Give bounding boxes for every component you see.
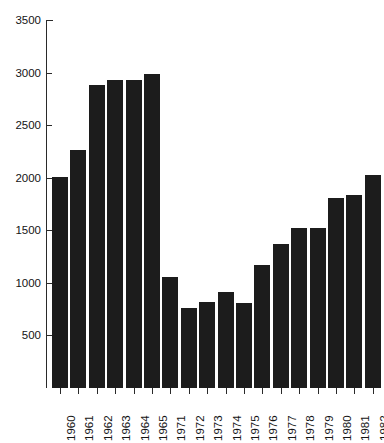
x-tick-label: 1975 bbox=[249, 415, 261, 441]
x-tick-label: 1963 bbox=[120, 415, 132, 441]
bar bbox=[144, 74, 160, 388]
y-tick-label: 1500 bbox=[15, 225, 41, 236]
y-tick-label: 500 bbox=[22, 330, 41, 341]
bar bbox=[181, 308, 197, 388]
x-tick-label: 1979 bbox=[323, 415, 335, 441]
x-tick-label: 1971 bbox=[175, 415, 187, 441]
y-tick-label: 3500 bbox=[15, 15, 41, 26]
bar bbox=[162, 277, 178, 388]
x-tick-label: 1976 bbox=[267, 415, 279, 441]
plot-area bbox=[46, 20, 382, 388]
bar bbox=[218, 292, 234, 388]
bar bbox=[365, 175, 381, 388]
bar bbox=[328, 198, 344, 388]
bar bbox=[291, 228, 307, 388]
bar bbox=[126, 80, 142, 388]
x-tick-label: 1961 bbox=[83, 415, 95, 441]
x-tick-label: 1972 bbox=[194, 415, 206, 441]
y-tick-mark bbox=[46, 178, 52, 179]
x-tick-label: 1973 bbox=[212, 415, 224, 441]
y-tick-label: 2500 bbox=[15, 120, 41, 131]
y-tick-label: 2000 bbox=[15, 173, 41, 184]
x-tick-label: 1980 bbox=[341, 415, 353, 441]
y-tick-mark bbox=[46, 230, 52, 231]
x-tick-label: 1978 bbox=[304, 415, 316, 441]
x-tick-label: 1982 bbox=[378, 415, 384, 441]
bar bbox=[310, 228, 326, 388]
y-tick-label: 3000 bbox=[15, 68, 41, 79]
x-tick-label: 1965 bbox=[157, 415, 169, 441]
x-axis-labels: 1960196119621963196419651971197219731974… bbox=[46, 394, 382, 443]
y-tick-mark bbox=[46, 283, 52, 284]
y-tick-mark bbox=[46, 125, 52, 126]
y-tick-mark bbox=[46, 73, 52, 74]
bar bbox=[52, 177, 68, 388]
x-tick-label: 1960 bbox=[65, 415, 77, 441]
y-tick-mark bbox=[46, 335, 52, 336]
bar bbox=[70, 150, 86, 388]
bar bbox=[236, 303, 252, 388]
x-tick-label: 1974 bbox=[231, 415, 243, 441]
bar bbox=[346, 195, 362, 388]
x-tick-label: 1964 bbox=[139, 415, 151, 441]
bar bbox=[273, 244, 289, 388]
bar bbox=[254, 265, 270, 388]
y-axis-labels: 350030002500200015001000500 bbox=[0, 20, 44, 388]
x-tick-label: 1962 bbox=[102, 415, 114, 441]
bar-chart: 350030002500200015001000500 196019611962… bbox=[0, 0, 384, 443]
bar bbox=[107, 80, 123, 388]
x-tick-label: 1977 bbox=[286, 415, 298, 441]
bars-group bbox=[46, 20, 382, 388]
y-tick-label: 1000 bbox=[15, 278, 41, 289]
bar bbox=[89, 85, 105, 388]
x-tick-label: 1981 bbox=[359, 415, 371, 441]
bar bbox=[199, 302, 215, 388]
